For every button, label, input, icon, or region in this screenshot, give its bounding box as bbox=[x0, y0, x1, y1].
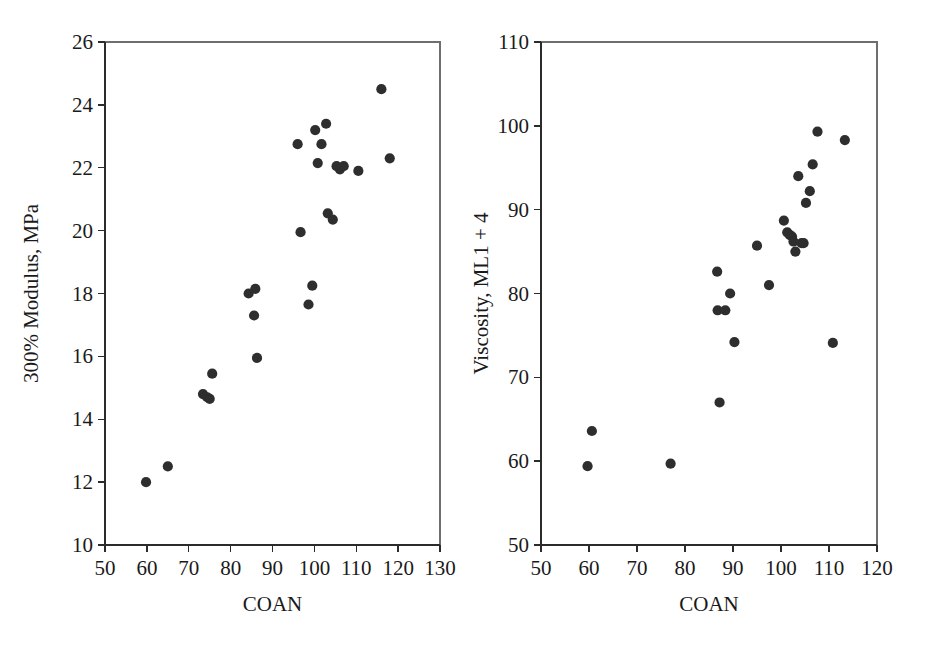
figure-container: 1012141618202224265060708090100110120130… bbox=[0, 0, 931, 645]
x-axis-tick-label: 70 bbox=[178, 556, 199, 580]
data-point bbox=[205, 394, 215, 404]
y-axis-title: Viscosity, ML1 + 4 bbox=[469, 212, 493, 375]
x-axis-tick-label: 80 bbox=[220, 556, 241, 580]
data-point bbox=[582, 461, 592, 471]
y-axis-tick-label: 90 bbox=[508, 198, 529, 222]
viscosity-vs-coan-plot: 50607080901001105060708090100110120COANV… bbox=[466, 0, 931, 645]
x-axis-tick-label: 110 bbox=[814, 556, 845, 580]
y-axis-tick-label: 80 bbox=[508, 282, 529, 306]
y-axis-tick-label: 50 bbox=[508, 533, 529, 557]
data-point bbox=[316, 139, 326, 149]
data-point bbox=[321, 119, 331, 129]
y-axis-tick-label: 16 bbox=[72, 344, 93, 368]
data-point bbox=[666, 459, 676, 469]
x-axis-title: COAN bbox=[679, 592, 739, 616]
y-axis-title: 300% Modulus, MPa bbox=[19, 203, 43, 383]
data-point bbox=[720, 305, 730, 315]
y-axis-tick-label: 18 bbox=[72, 282, 93, 306]
data-point bbox=[307, 281, 317, 291]
data-point bbox=[293, 139, 303, 149]
data-point bbox=[779, 215, 789, 225]
data-point bbox=[793, 171, 803, 181]
data-point bbox=[313, 158, 323, 168]
x-axis-tick-label: 50 bbox=[95, 556, 116, 580]
data-point bbox=[250, 284, 260, 294]
data-point bbox=[801, 198, 811, 208]
data-point bbox=[141, 477, 151, 487]
y-axis-tick-label: 22 bbox=[72, 156, 93, 180]
data-point bbox=[714, 397, 724, 407]
modulus-vs-coan-plot: 1012141618202224265060708090100110120130… bbox=[0, 0, 465, 645]
data-point bbox=[764, 280, 774, 290]
data-point bbox=[163, 461, 173, 471]
x-axis-tick-label: 120 bbox=[861, 556, 893, 580]
data-point bbox=[752, 241, 762, 251]
y-axis-tick-label: 24 bbox=[72, 93, 94, 117]
x-axis-tick-label: 130 bbox=[424, 556, 456, 580]
y-axis-tick-label: 12 bbox=[72, 470, 93, 494]
y-axis-tick-label: 100 bbox=[498, 114, 530, 138]
y-axis-tick-label: 60 bbox=[508, 449, 529, 473]
y-axis-tick-label: 110 bbox=[498, 30, 529, 54]
data-point bbox=[790, 246, 800, 256]
x-axis-tick-label: 60 bbox=[136, 556, 157, 580]
x-axis-tick-label: 70 bbox=[627, 556, 648, 580]
data-point bbox=[828, 338, 838, 348]
y-axis-tick-label: 70 bbox=[508, 365, 529, 389]
data-point bbox=[725, 288, 735, 298]
data-point bbox=[207, 369, 217, 379]
x-axis-tick-label: 110 bbox=[341, 556, 372, 580]
x-axis-tick-label: 120 bbox=[382, 556, 414, 580]
plot-frame bbox=[105, 42, 440, 545]
data-point bbox=[385, 153, 395, 163]
data-point bbox=[339, 161, 349, 171]
data-point bbox=[805, 186, 815, 196]
scatter-panel-left: 1012141618202224265060708090100110120130… bbox=[0, 0, 465, 645]
data-point bbox=[310, 125, 320, 135]
data-point bbox=[587, 426, 597, 436]
data-point bbox=[328, 215, 338, 225]
x-axis-tick-label: 80 bbox=[675, 556, 696, 580]
y-axis-tick-label: 10 bbox=[72, 533, 93, 557]
y-axis-tick-label: 14 bbox=[72, 407, 94, 431]
x-axis-tick-label: 100 bbox=[299, 556, 331, 580]
y-axis-tick-label: 20 bbox=[72, 219, 93, 243]
data-point bbox=[303, 299, 313, 309]
x-axis-tick-label: 50 bbox=[531, 556, 552, 580]
x-axis-title: COAN bbox=[243, 592, 303, 616]
x-axis-tick-label: 90 bbox=[723, 556, 744, 580]
data-point bbox=[729, 337, 739, 347]
y-axis-tick-label: 26 bbox=[72, 30, 93, 54]
scatter-panel-right: 50607080901001105060708090100110120COANV… bbox=[466, 0, 931, 645]
data-point bbox=[252, 353, 262, 363]
data-point bbox=[808, 159, 818, 169]
data-point bbox=[249, 310, 259, 320]
data-point bbox=[353, 166, 363, 176]
data-point bbox=[712, 267, 722, 277]
data-point bbox=[840, 135, 850, 145]
x-axis-tick-label: 90 bbox=[262, 556, 283, 580]
data-point bbox=[376, 84, 386, 94]
data-point bbox=[812, 127, 822, 137]
plot-axes bbox=[105, 42, 440, 545]
data-point bbox=[798, 238, 808, 248]
data-point bbox=[295, 227, 305, 237]
x-axis-tick-label: 100 bbox=[765, 556, 797, 580]
x-axis-tick-label: 60 bbox=[579, 556, 600, 580]
